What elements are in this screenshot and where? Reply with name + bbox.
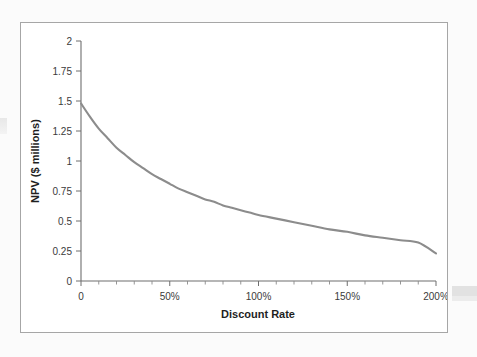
x-tick-label: 100% — [246, 291, 272, 302]
y-tick-label: 1.25 — [53, 126, 73, 137]
npv-curve — [81, 103, 436, 253]
npv-discount-rate-chart: 00.250.50.7511.251.51.752 050%100%150%20… — [21, 23, 447, 332]
y-tick-label: 2 — [66, 36, 72, 47]
x-tick-label: 50% — [160, 291, 180, 302]
y-tick-label: 0.5 — [58, 216, 72, 227]
y-axis-ticks: 00.250.50.7511.251.51.752 — [53, 36, 81, 287]
x-tick-label: 0 — [78, 291, 84, 302]
x-tick-label: 150% — [334, 291, 360, 302]
y-axis-title: NPV ($ millions) — [29, 119, 41, 203]
scan-artifact-right-band — [452, 286, 477, 296]
x-tick-label: 200% — [423, 291, 447, 302]
y-tick-label: 1 — [66, 156, 72, 167]
y-tick-label: 1.5 — [58, 96, 72, 107]
y-tick-label: 0.25 — [53, 246, 73, 257]
page-background: 00.250.50.7511.251.51.752 050%100%150%20… — [0, 0, 477, 357]
x-axis-ticks: 050%100%150%200% — [78, 281, 447, 302]
y-tick-label: 0 — [66, 276, 72, 287]
y-tick-label: 1.75 — [53, 66, 73, 77]
scan-artifact-right-band-secondary — [452, 296, 477, 301]
chart-card: 00.250.50.7511.251.51.752 050%100%150%20… — [20, 22, 448, 333]
x-axis-title: Discount Rate — [221, 308, 295, 320]
scan-artifact-left — [0, 118, 7, 134]
y-tick-label: 0.75 — [53, 186, 73, 197]
